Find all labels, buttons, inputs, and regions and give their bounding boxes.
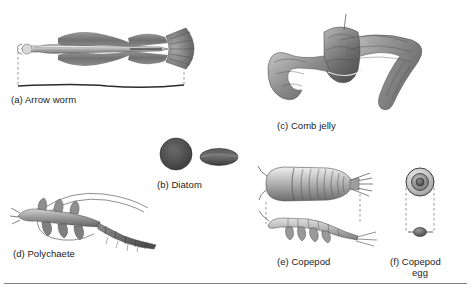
copepod-egg-nucleus: [416, 178, 424, 186]
polychaete-illustration: [8, 186, 158, 252]
caption-copepod: (e) Copepod: [277, 256, 387, 268]
copepod-antennae: [258, 166, 267, 200]
copepod-dorsal-view: [258, 166, 373, 201]
specimen-copepod: [258, 164, 383, 248]
arrow-worm-scale-bracket: [17, 52, 190, 89]
copepod-egg-illustration: [394, 166, 446, 248]
polychaete-posterior-segments: [98, 223, 156, 249]
diatom-illustration: [158, 137, 240, 175]
caption-arrow-worm: (a) Arrow worm: [11, 94, 141, 106]
figure-plate: (a) Arrow worm: [0, 0, 471, 294]
caption-diatom: (b) Diatom: [157, 179, 267, 191]
caption-copepod-egg-line2: egg: [412, 267, 471, 279]
copepod-lateral-caudal-setae: [356, 232, 377, 246]
specimen-comb-jelly: [262, 10, 452, 120]
comb-jelly-illustration: [262, 10, 452, 120]
caption-polychaete: (d) Polychaete: [13, 248, 133, 260]
copepod-egg-actual-size: [414, 228, 427, 237]
comb-jelly-left-lobe: [268, 53, 330, 100]
copepod-urosome: [350, 178, 359, 190]
caption-copepod-egg-line1: (f) Copepod: [390, 256, 470, 268]
bracket-scale-bar: [18, 85, 184, 88]
specimen-diatom: [158, 137, 240, 175]
arrow-worm-posterior-fin-top: [128, 34, 168, 47]
specimen-polychaete: [8, 186, 158, 252]
specimen-copepod-egg: [394, 166, 446, 248]
caption-comb-jelly: (c) Comb jelly: [277, 120, 397, 132]
bottom-rule: [4, 283, 467, 284]
copepod-illustration: [258, 164, 383, 248]
copepod-lateral-view: [259, 211, 377, 246]
copepod-lateral-antenna: [259, 211, 269, 221]
